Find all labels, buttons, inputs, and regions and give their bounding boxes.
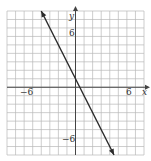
- plotted-line: [41, 11, 114, 155]
- axes: [7, 6, 150, 155]
- x-tick-6: 6: [126, 87, 132, 97]
- x-tick-neg6: −6: [20, 87, 34, 97]
- y-tick-6: 6: [69, 28, 75, 38]
- x-axis-label: x: [142, 87, 147, 97]
- y-tick-neg6: −6: [62, 134, 76, 144]
- graph-plot: −6 6 x 6 −6 y: [0, 0, 151, 161]
- y-axis-label: y: [68, 11, 75, 21]
